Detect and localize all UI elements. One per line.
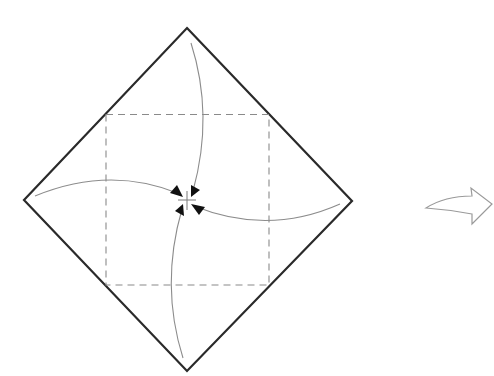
arrowhead-left-icon bbox=[170, 185, 183, 197]
fold-arrow-left bbox=[35, 180, 180, 196]
origami-diagram bbox=[0, 0, 494, 376]
fold-arrow-right bbox=[194, 204, 340, 221]
arrowhead-right-icon bbox=[191, 204, 205, 215]
fold-arrow-bottom bbox=[171, 209, 183, 358]
diagram-canvas bbox=[0, 0, 494, 376]
next-step-arrow-icon bbox=[426, 188, 492, 224]
arrowhead-top-icon bbox=[191, 185, 200, 197]
fold-arrow-top bbox=[191, 43, 203, 191]
arrowhead-bottom-icon bbox=[175, 204, 184, 216]
